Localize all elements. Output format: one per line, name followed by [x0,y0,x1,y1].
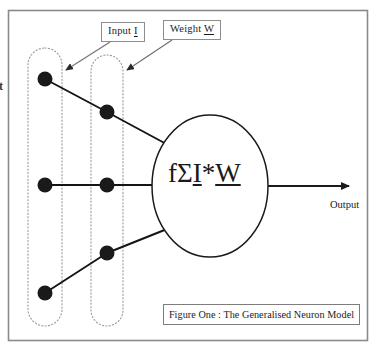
weight-label-box: Weight W [163,20,221,40]
input-label-text: Input [108,25,131,36]
input-vector-symbol: I [193,158,202,188]
weight-vector-symbol: W [215,158,240,188]
node-group [38,72,115,301]
weight-label-leader [127,40,172,70]
weight-node-1 [100,105,115,120]
input-node-1 [38,72,53,87]
weight-node-2 [100,178,115,193]
activation-function-symbol: f [168,158,177,188]
input-label-leader [66,42,110,70]
figure-caption-box: Figure One : The Generalised Neuron Mode… [163,304,360,325]
input-node-3 [38,286,53,301]
edge-weight3-soma [107,227,172,253]
neuron-activation-formula: fΣI*W [168,160,241,187]
sum-symbol: Σ [177,158,193,188]
multiply-symbol: * [202,158,216,188]
edge-weight1-soma [107,112,170,146]
weight-label-text: Weight [170,23,201,34]
edge-input1-weight1 [45,79,107,112]
neuron-diagram-figure: fΣI*W Input I Weight W Output t Figure O… [0,0,376,351]
weight-label-symbol: W [204,23,214,34]
input-node-2 [38,178,53,193]
edge-input3-weight3 [45,253,107,293]
weight-node-3 [100,246,115,261]
cropped-edge-text: t [0,79,3,93]
input-label-symbol: I [134,25,138,36]
figure-caption-text: Figure One : The Generalised Neuron Mode… [169,309,354,320]
input-label-box: Input I [101,22,145,42]
output-label: Output [330,199,359,210]
